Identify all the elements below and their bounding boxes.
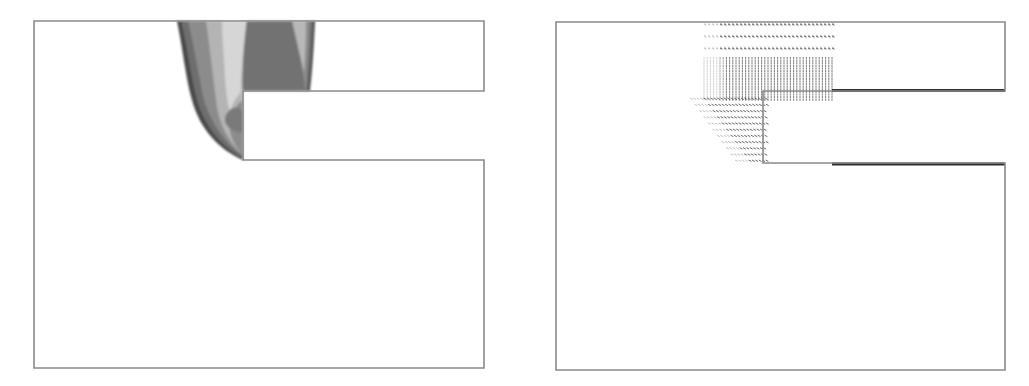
vector-field-canvas <box>515 0 1029 386</box>
contour-plot-canvas <box>0 0 515 386</box>
contour-plot-panel <box>0 0 515 386</box>
vector-field-panel <box>515 0 1029 386</box>
